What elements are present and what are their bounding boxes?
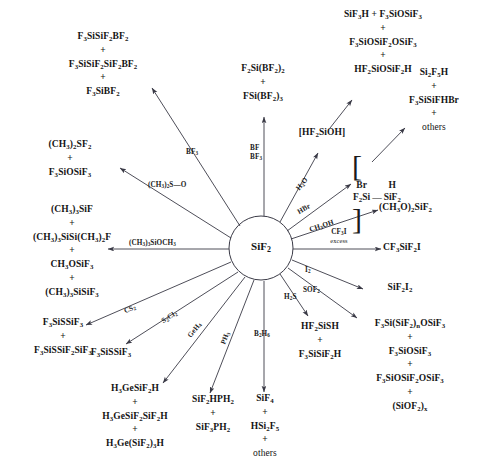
reagent-condition: excess	[316, 237, 362, 245]
arrow-sof2	[288, 268, 357, 318]
product-line: SiF2I2	[388, 282, 413, 292]
product-line: F3SiSiF2SiF2BF2	[69, 59, 138, 69]
reagent-label-bf3-left: BF3	[186, 148, 198, 156]
product-group-bf3-left: F3SiSiF2BF2 + F3SiSiF2SiF2BF2 + F3SiBF2	[18, 30, 188, 99]
plus-sign: +	[100, 72, 106, 82]
product-line: SiF4	[256, 393, 274, 403]
reagent-label-sof2: SOF2	[303, 286, 320, 294]
intermediate-hf2sioh: [HF2SiOH]	[282, 126, 362, 140]
plus-sign: +	[380, 23, 386, 33]
intermediate-fragment-sif2: SiF2	[383, 191, 402, 204]
plus-sign: +	[210, 408, 216, 418]
plus-sign: +	[262, 434, 268, 444]
arrow-h2o-products	[330, 100, 352, 128]
reagent-label-tms-methoxide: (CH3)3SiOCH3	[129, 239, 176, 247]
product-line: CF3SiF2I	[383, 242, 421, 252]
intermediate-bond: —	[371, 191, 383, 204]
plus-sign: +	[262, 407, 268, 417]
product-line: CH3OSiF3	[51, 259, 94, 269]
product-line: (CH3)3SiSi(CH3)2F	[33, 232, 111, 242]
arrow-bf3-left	[152, 88, 240, 226]
reagent-label-bf-bf3: BF BF3	[250, 144, 262, 162]
plus-sign: +	[67, 153, 73, 163]
plus-sign: +	[60, 331, 66, 341]
product-group-s2cl2: F3SiSSiF3	[56, 346, 166, 360]
bracket-left-icon: [	[352, 152, 362, 179]
center-species-label: SiF2	[251, 240, 271, 252]
product-group-sof2: F3Si(SiF2)nOSiF3 + F3SiOSiF3 + F3SiOSiF2…	[345, 317, 475, 413]
product-line: F3SiSiF2BF2	[78, 31, 129, 41]
product-line: H3GeSiF2SiF2H	[102, 411, 167, 421]
product-group-bf-bf3: F2Si(BF2)2 + FSi(BF2)3	[205, 62, 321, 103]
product-line: (CH3)3SiSiF3	[45, 287, 99, 297]
product-line: SiF3PH2	[196, 422, 230, 432]
product-line: SiF3H + F3SiOSiF3	[344, 9, 422, 19]
arrow-geh4	[163, 277, 245, 383]
product-line: HF2SiOSiF2H	[354, 64, 412, 74]
reagent-label-h2s: H2S	[284, 293, 297, 301]
intermediate-label: [HF2SiOH]	[299, 127, 346, 137]
intermediate-hbr-adduct: [ Br H F2Si — SiF2 ]	[352, 152, 402, 232]
plus-sign: +	[407, 387, 413, 397]
product-line: F3SiSSiF3	[43, 317, 83, 327]
product-line: F3Si(SiF2)nOSiF3	[375, 318, 446, 328]
product-group-cf3i: CF3SiF2I	[383, 241, 475, 255]
product-line: H3Ge(SiF2)3H	[106, 438, 164, 448]
reagent-label-dmso: (CH3)2S—O	[148, 181, 186, 189]
center-species: SiF2	[231, 240, 291, 254]
plus-sign: +	[69, 245, 75, 255]
product-line: SiF2HPH2	[192, 394, 234, 404]
plus-sign: +	[260, 77, 266, 87]
plus-sign: +	[317, 335, 323, 345]
sif2-reaction-diagram: SiF2 F3SiSiF2BF2 + F3SiSiF2SiF2BF2 + F3S…	[0, 0, 480, 475]
product-line: F3SiSiF2H	[299, 349, 342, 359]
product-line: HSi2F5	[251, 421, 280, 431]
reagent-label-b2h6: B2H6	[254, 330, 270, 338]
plus-sign: +	[407, 332, 413, 342]
product-line: F3SiSiFHBr	[409, 95, 459, 105]
product-group-b2h6: SiF4 + HSi2F5 + others	[230, 392, 300, 461]
plus-sign: +	[69, 273, 75, 283]
plus-sign: +	[132, 397, 138, 407]
plus-sign: +	[431, 81, 437, 91]
product-line-others: others	[390, 121, 478, 135]
product-group-i2: SiF2I2	[365, 281, 435, 295]
product-line: F3SiOSiF3	[49, 167, 92, 177]
product-line: F3SiSSiF3	[91, 347, 131, 357]
arrow-i2	[292, 260, 363, 289]
product-group-tms-methoxide: (CH3)3SiF + (CH3)3SiSi(CH3)2F + CH3OSiF3…	[2, 203, 142, 299]
product-line: (CH3)2SF2	[49, 139, 92, 149]
product-line: H3GeSiF2H	[111, 383, 159, 393]
product-line: HF2SiSH	[301, 321, 339, 331]
intermediate-atom-h: H	[383, 179, 402, 191]
plus-sign: +	[431, 108, 437, 118]
arrow-ph3	[210, 280, 254, 393]
plus-sign: +	[69, 218, 75, 228]
reagent-line-1: BF	[250, 144, 259, 152]
product-line: F2Si(BF2)2	[241, 63, 284, 73]
product-line: (CH3)3SiF	[51, 204, 93, 214]
plus-sign: +	[407, 359, 413, 369]
plus-sign: +	[100, 45, 106, 55]
bracket-right-icon: ]	[352, 205, 362, 232]
product-line: F3SiOSiF2OSiF3	[376, 373, 444, 383]
product-line: F3SiOSiF2OSiF3	[349, 37, 417, 47]
product-line-others: others	[230, 447, 300, 461]
plus-sign: +	[380, 50, 386, 60]
product-line: F3SiOSiF3	[389, 346, 432, 356]
reagent-label-i2: I2	[305, 266, 311, 274]
product-group-dmso: (CH3)2SF2 + F3SiOSiF3	[10, 138, 130, 179]
product-line: F3SiBF2	[86, 86, 119, 96]
product-line: (SiOF2)x	[392, 401, 427, 411]
product-line: FSi(BF2)3	[243, 91, 283, 101]
reagent-line-2: BF3	[250, 153, 262, 161]
plus-sign: +	[132, 424, 138, 434]
